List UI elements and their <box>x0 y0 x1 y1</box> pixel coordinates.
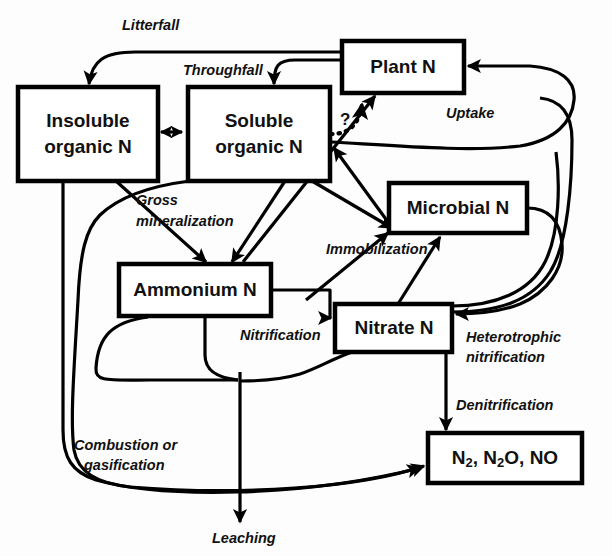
flux-label-gross-mineralization-line1: Gross <box>136 192 178 208</box>
gas-seg-3: 2 <box>497 455 504 470</box>
pool-insoluble-organic-n: Insoluble organic N <box>18 87 158 181</box>
flow-throughfall <box>274 60 342 84</box>
pool-plant-n: Plant N <box>342 41 464 93</box>
pool-box-insoluble-organic-n <box>18 87 158 181</box>
flux-label-immobilization: Immobilization <box>326 241 428 257</box>
gas-seg-4: O, NO <box>504 447 558 468</box>
flow-ammonium-leaching <box>205 317 238 380</box>
flux-label-combustion-or-gasification-line2: gasification <box>83 457 165 473</box>
pool-nitrate-n: Nitrate N <box>335 304 452 352</box>
flux-label-combustion-or-gasification-line1: Combustion or <box>74 437 178 453</box>
pool-label-nitrate-n: Nitrate N <box>354 317 433 338</box>
flow-ammonium-left-sweep <box>96 317 238 380</box>
flux-label-unknown: ? <box>340 110 350 129</box>
gas-seg-1: 2 <box>466 455 473 470</box>
pool-box-soluble-organic-n <box>188 87 330 181</box>
flux-label-uptake: Uptake <box>446 105 494 121</box>
flux-label-leaching: Leaching <box>212 530 276 546</box>
nitrogen-cycle-diagram: Insoluble organic N Soluble organic N Pl… <box>0 0 612 556</box>
flux-label-litterfall: Litterfall <box>122 17 180 33</box>
flux-label-heterotrophic-nitrification-line1: Heterotrophic <box>466 329 561 345</box>
flow-nitrate-leaching <box>241 352 352 381</box>
pool-soluble-organic-n: Soluble organic N <box>188 87 330 181</box>
pool-label-soluble-organic-n-line2: organic N <box>215 136 303 157</box>
pool-label-plant-n: Plant N <box>370 56 435 77</box>
flow-nitrification <box>272 290 331 318</box>
gas-seg-0: N <box>452 447 466 468</box>
flux-label-heterotrophic-nitrification-line2: nitrification <box>466 349 545 365</box>
pool-microbial-n: Microbial N <box>389 183 527 233</box>
pool-ammonium-n: Ammonium N <box>119 264 271 316</box>
gas-seg-2: , N <box>473 447 497 468</box>
pool-label-soluble-organic-n-line1: Soluble <box>225 110 294 131</box>
pool-label-microbial-n: Microbial N <box>407 197 509 218</box>
flux-label-nitrification: Nitrification <box>240 327 321 343</box>
pool-label-insoluble-organic-n-line2: organic N <box>44 136 132 157</box>
flux-label-throughfall: Throughfall <box>183 62 264 78</box>
pool-gases: N2, N2O, NO <box>428 433 582 483</box>
nitrogen-cycle-svg: Insoluble organic N Soluble organic N Pl… <box>0 0 612 556</box>
flux-label-gross-mineralization-line2: mineralization <box>136 213 234 229</box>
flow-soluble-to-microbial <box>312 181 392 228</box>
pool-label-ammonium-n: Ammonium N <box>133 279 257 300</box>
flux-label-denitrification: Denitrification <box>456 397 554 413</box>
pool-label-insoluble-organic-n-line1: Insoluble <box>46 110 129 131</box>
